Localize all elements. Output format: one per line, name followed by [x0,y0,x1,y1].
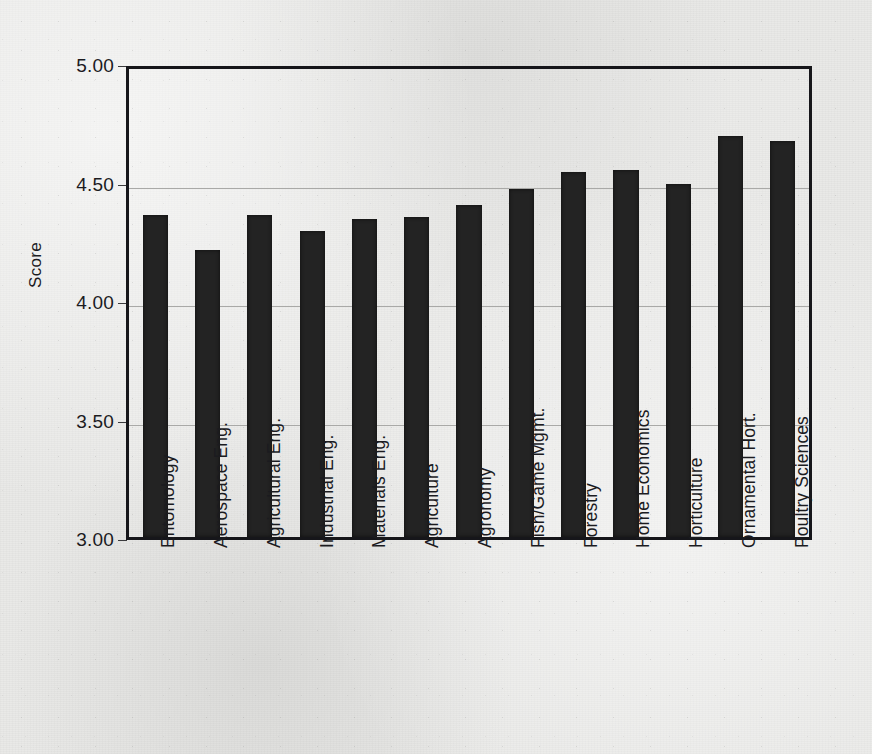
x-tick-label: Entomology [158,455,179,548]
bar-slot [548,69,600,537]
y-tick-label: 3.50 [76,411,114,433]
x-tick-label: Agricultural Eng. [264,418,285,548]
x-tick-slot: Agronomy [443,548,496,748]
y-tick-label: 4.50 [76,174,114,196]
y-tick-label: 3.00 [76,529,114,551]
x-tick-label: Industrial Eng. [317,435,338,548]
x-tick-slot: Forestry [548,548,601,748]
x-tick-slot: Poultry Sciences [759,548,812,748]
x-tick-label: Agronomy [475,467,496,548]
x-axis-tick-labels: EntomologyAerospace Eng.Agricultural Eng… [126,548,812,748]
x-tick-slot: Fish/Game Mgmt. [495,548,548,748]
x-tick-label: Forestry [581,483,602,548]
x-tick-label: Ornamental Hort. [739,412,760,548]
y-axis-tick-labels: 5.004.504.003.503.00 [36,66,114,540]
x-tick-slot: Agriculture [390,548,443,748]
x-tick-label: Fish/Game Mgmt. [528,407,549,548]
x-tick-label: Aerospace Eng. [211,422,232,548]
x-tick-slot: Ornamental Hort. [706,548,759,748]
x-tick-label: Home Economics [633,409,654,548]
x-tick-label: Poultry Sciences [792,416,813,548]
y-tick-label: 4.00 [76,292,114,314]
x-tick-slot: Materials Eng. [337,548,390,748]
x-tick-label: Agriculture [422,463,443,548]
x-tick-slot: Agricultural Eng. [232,548,285,748]
y-tick-mark [118,540,127,541]
x-tick-slot: Industrial Eng. [284,548,337,748]
x-tick-slot: Aerospace Eng. [179,548,232,748]
x-tick-slot: Horticulture [654,548,707,748]
x-tick-label: Materials Eng. [369,435,390,548]
x-tick-slot: Home Economics [601,548,654,748]
bar-chart: Score 5.004.504.003.503.00 EntomologyAer… [0,0,872,754]
x-tick-label: Horticulture [686,457,707,548]
x-tick-slot: Entomology [126,548,179,748]
y-tick-label: 5.00 [76,55,114,77]
